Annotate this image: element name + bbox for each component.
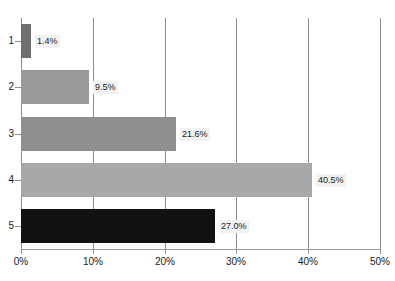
bar: [21, 24, 31, 58]
y-axis-category-label: 1: [0, 35, 14, 46]
y-axis-category-label: 5: [0, 220, 14, 231]
x-tick: [308, 249, 309, 254]
x-axis-tick-label: 50%: [360, 256, 395, 267]
x-tick: [236, 249, 237, 254]
bar-value-label: 9.5%: [93, 81, 118, 94]
x-tick: [93, 249, 94, 254]
x-axis-tick-label: 20%: [145, 256, 185, 267]
x-axis-line: [21, 249, 381, 250]
x-axis-tick-label: 0%: [1, 256, 41, 267]
x-tick: [380, 249, 381, 254]
gridline-50: [380, 18, 381, 249]
x-tick: [21, 249, 22, 254]
bar-value-label: 27.0%: [219, 220, 249, 233]
bar-value-label: 1.4%: [35, 35, 60, 48]
x-tick: [165, 249, 166, 254]
horizontal-bar-chart: 0%10%20%30%40%50% 12345 1.4%9.5%21.6%40.…: [0, 0, 395, 281]
y-axis-category-label: 4: [0, 174, 14, 185]
bar: [21, 163, 312, 197]
bar: [21, 117, 176, 151]
y-axis-category-label: 3: [0, 128, 14, 139]
bar: [21, 70, 89, 104]
x-axis-tick-label: 40%: [288, 256, 328, 267]
bar: [21, 209, 215, 243]
chart-title: [95, 0, 300, 4]
y-axis-category-label: 2: [0, 81, 14, 92]
x-axis-tick-label: 30%: [216, 256, 256, 267]
bar-value-label: 40.5%: [316, 174, 346, 187]
x-axis-tick-label: 10%: [73, 256, 113, 267]
bar-value-label: 21.6%: [180, 128, 210, 141]
